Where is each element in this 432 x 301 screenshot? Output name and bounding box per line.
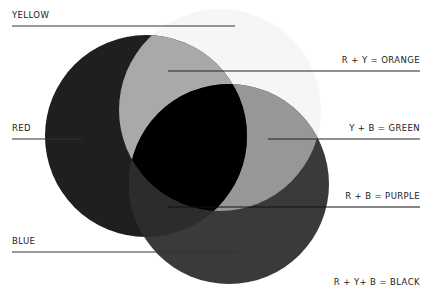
label-red: RED <box>12 123 31 133</box>
label-black: R + Y+ B = BLACK <box>334 277 420 287</box>
venn-diagram <box>0 0 432 301</box>
label-orange: R + Y = ORANGE <box>342 55 420 65</box>
label-blue: BLUE <box>12 236 35 246</box>
label-green: Y + B = GREEN <box>349 123 420 133</box>
label-yellow: YELLOW <box>12 10 49 20</box>
label-purple: R + B = PURPLE <box>345 191 420 201</box>
